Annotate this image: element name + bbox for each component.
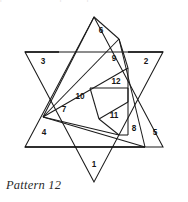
region-label-9: 9 (112, 54, 117, 63)
region-label-7: 7 (62, 105, 67, 114)
region-label-8: 8 (132, 124, 137, 133)
region-label-1: 1 (92, 160, 97, 169)
region-label-5: 5 (153, 128, 158, 137)
region-label-6: 6 (99, 26, 104, 35)
region-label-10: 10 (75, 92, 85, 101)
cut-upperright-to-rightmid (119, 39, 128, 68)
region-label-12: 12 (111, 77, 121, 86)
figure-caption: Pattern 12 (6, 178, 61, 193)
region-label-4: 4 (42, 128, 47, 137)
star-of-david-dissection-diagram: 1 2 3 4 5 6 7 8 9 10 11 12 (0, 0, 188, 202)
region-label-2: 2 (144, 57, 149, 66)
inner-triangle-left-edge (90, 88, 99, 119)
region-label-11: 11 (110, 111, 119, 120)
region-label-3: 3 (41, 57, 46, 66)
cut-upperright-to-left-hub (43, 39, 119, 117)
figure-root: puzzle solution · pattern pieces (0, 0, 188, 202)
cut-left-hub-to-bottomright (43, 117, 145, 147)
